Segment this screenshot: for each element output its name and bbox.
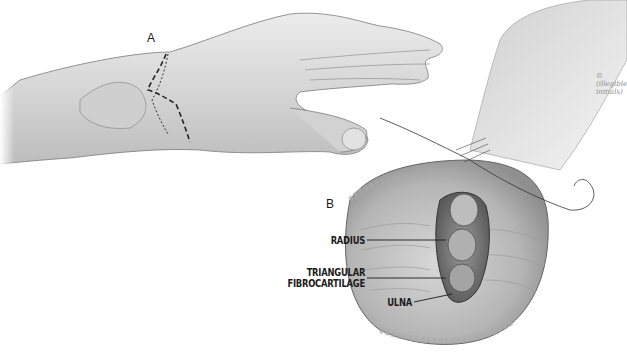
panel-b-label: B [326,197,334,211]
label-radius: RADIUS [331,235,366,246]
illustration-artwork [0,0,627,358]
panel-a-hand [0,0,442,180]
medical-illustration: A B © (illegible initials) RADIUS TRIANG… [0,0,627,358]
label-ulna: ULNA [387,297,412,308]
panel-a-label: A [147,31,155,45]
artist-signature: © (illegible initials) [596,72,627,96]
label-tfcc-line2: FIBROCARTILAGE [287,278,365,289]
